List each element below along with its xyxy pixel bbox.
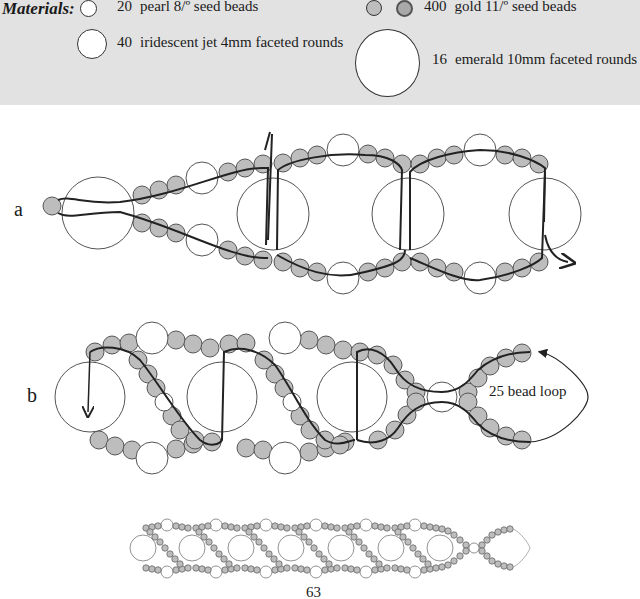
page-number: 63 [306,584,321,599]
diagram-a [43,132,581,294]
finished-bracelet-diagram [130,519,530,578]
diagram-b [55,322,588,474]
beading-diagrams [0,0,640,599]
